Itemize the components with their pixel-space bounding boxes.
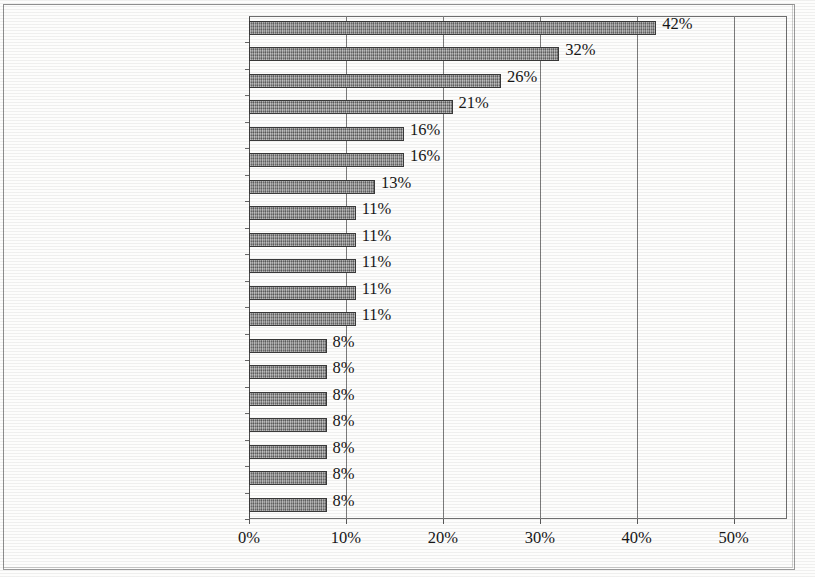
- x-tick-20: [443, 519, 444, 524]
- bar[interactable]: [249, 418, 327, 432]
- bar-value-label: 21%: [459, 93, 489, 113]
- bar-row: 8%: [249, 466, 787, 491]
- x-axis-label: 40%: [622, 528, 652, 548]
- bar-row: 42%: [249, 16, 787, 41]
- bar-value-label: 16%: [410, 146, 440, 166]
- x-axis-label: 10%: [331, 528, 361, 548]
- bar-value-label: 11%: [362, 279, 392, 299]
- bar-row: 11%: [249, 281, 787, 306]
- bar[interactable]: [249, 286, 356, 300]
- bar[interactable]: [249, 498, 327, 512]
- bar-value-label: 42%: [662, 14, 692, 34]
- bar-value-label: 8%: [333, 385, 355, 405]
- bar[interactable]: [249, 74, 501, 88]
- bar-value-label: 8%: [333, 332, 355, 352]
- bar[interactable]: [249, 21, 656, 35]
- bar[interactable]: [249, 471, 327, 485]
- bar-value-label: 8%: [333, 358, 355, 378]
- bar[interactable]: [249, 47, 559, 61]
- bar-value-label: 8%: [333, 491, 355, 511]
- bar-value-label: 11%: [362, 252, 392, 272]
- bar-row: 8%: [249, 413, 787, 438]
- plot-area: 42%32%26%21%16%16%13%11%11%11%11%11%8%8%…: [249, 16, 787, 519]
- bar[interactable]: [249, 233, 356, 247]
- bar[interactable]: [249, 445, 327, 459]
- bar-value-label: 26%: [507, 67, 537, 87]
- bar-row: 16%: [249, 122, 787, 147]
- x-axis-label: 20%: [428, 528, 458, 548]
- bar[interactable]: [249, 100, 453, 114]
- bar-value-label: 16%: [410, 120, 440, 140]
- x-tick-30: [540, 519, 541, 524]
- bar-value-label: 11%: [362, 199, 392, 219]
- bar-row: 21%: [249, 95, 787, 120]
- bar-value-label: 8%: [333, 411, 355, 431]
- x-tick-50: [734, 519, 735, 524]
- bar-row: 11%: [249, 201, 787, 226]
- bar-row: 8%: [249, 387, 787, 412]
- bar-value-label: 11%: [362, 305, 392, 325]
- bar[interactable]: [249, 259, 356, 273]
- bar-row: 8%: [249, 334, 787, 359]
- bar[interactable]: [249, 180, 375, 194]
- bar-value-label: 32%: [565, 40, 595, 60]
- bar-row: 32%: [249, 42, 787, 67]
- bar[interactable]: [249, 312, 356, 326]
- x-axis-label: 30%: [525, 528, 555, 548]
- bar-value-label: 8%: [333, 464, 355, 484]
- x-tick-0: [249, 519, 250, 524]
- bar[interactable]: [249, 339, 327, 353]
- bar-row: 8%: [249, 360, 787, 385]
- bar-row: 11%: [249, 307, 787, 332]
- bar-row: 16%: [249, 148, 787, 173]
- x-axis-label: 50%: [719, 528, 749, 548]
- bar-row: 11%: [249, 254, 787, 279]
- bar[interactable]: [249, 206, 356, 220]
- bar-row: 11%: [249, 228, 787, 253]
- bar-row: 13%: [249, 175, 787, 200]
- x-axis-label: 0%: [238, 528, 260, 548]
- x-tick-10: [346, 519, 347, 524]
- bar-row: 8%: [249, 493, 787, 518]
- bar-row: 8%: [249, 440, 787, 465]
- bar-value-label: 13%: [381, 173, 411, 193]
- bar-row: 26%: [249, 69, 787, 94]
- x-tick-40: [637, 519, 638, 524]
- bar-value-label: 11%: [362, 226, 392, 246]
- bar[interactable]: [249, 153, 404, 167]
- bar[interactable]: [249, 365, 327, 379]
- bar[interactable]: [249, 392, 327, 406]
- bar[interactable]: [249, 127, 404, 141]
- y-tick: [245, 519, 249, 520]
- bar-value-label: 8%: [333, 438, 355, 458]
- figure: 42%32%26%21%16%16%13%11%11%11%11%11%8%8%…: [0, 0, 815, 577]
